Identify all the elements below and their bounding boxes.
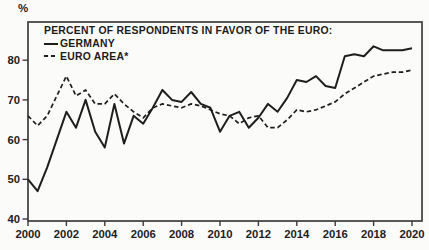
x-tick-label: 2018 (361, 228, 386, 240)
x-tick-label: 2020 (399, 228, 424, 240)
x-tick-label: 2002 (54, 228, 79, 240)
legend-item-germany: GERMANY (44, 38, 333, 51)
x-tick-label: 2014 (284, 228, 310, 240)
y-tick-label: 60 (7, 134, 20, 146)
y-tick-label: 50 (7, 173, 20, 185)
y-tick-label: 80 (7, 54, 20, 66)
x-tick-label: 2000 (15, 228, 40, 240)
series-line-germany (28, 46, 412, 191)
legend: GERMANY EURO AREA* (44, 38, 333, 63)
y-tick-label: 70 (7, 94, 20, 106)
chart-title: PERCENT OF RESPONDENTS IN FAVOR OF THE E… (44, 25, 333, 38)
solid-line-marker (44, 41, 59, 47)
x-tick-label: 2006 (131, 228, 156, 240)
series-line-euro-area (28, 70, 412, 128)
x-tick-label: 2008 (169, 228, 194, 240)
x-tick-label: 2012 (246, 228, 271, 240)
x-tick-label: 2004 (92, 228, 118, 240)
y-tick-label: 40 (7, 213, 20, 225)
dashed-line-marker (44, 53, 59, 59)
legend-item-euro-area: EURO AREA* (44, 50, 333, 63)
x-tick-label: 2016 (323, 228, 348, 240)
legend-label-euro-area: EURO AREA* (60, 51, 129, 62)
euro-support-chart: % PERCENT OF RESPONDENTS IN FAVOR OF THE… (0, 0, 429, 250)
title-and-legend-block: PERCENT OF RESPONDENTS IN FAVOR OF THE E… (44, 25, 333, 63)
legend-label-germany: GERMANY (60, 38, 115, 49)
x-tick-label: 2010 (207, 228, 232, 240)
